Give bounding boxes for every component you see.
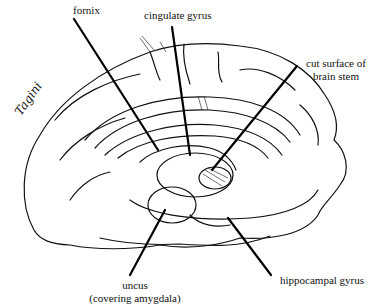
- label-uncus: uncus (covering amygdala): [80, 279, 190, 305]
- cingulate-leader: [172, 27, 190, 155]
- hippocampal-leader: [228, 218, 271, 275]
- label-uncus-line1: uncus: [80, 279, 190, 292]
- uncus-leader: [130, 210, 165, 275]
- label-fornix: fornix: [73, 4, 100, 17]
- label-cut-surface-line1: cut surface of: [298, 57, 374, 70]
- brain-diagram: Tagini fornix cingulate gyrus cut surfac…: [0, 0, 375, 307]
- brain-illustration: [0, 0, 375, 307]
- label-cut-surface: cut surface of brain stem: [298, 57, 374, 83]
- label-cut-surface-line2: brain stem: [298, 70, 374, 83]
- label-hippocampal-gyrus: hippocampal gyrus: [280, 274, 364, 287]
- label-uncus-line2: (covering amygdala): [80, 292, 190, 305]
- label-cingulate-gyrus: cingulate gyrus: [144, 9, 212, 22]
